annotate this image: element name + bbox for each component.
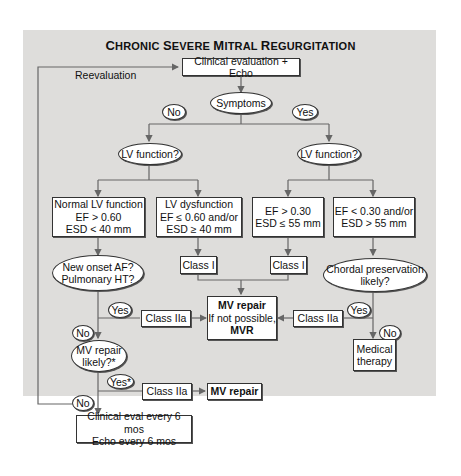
mv-repair-line2: If not possible, — [208, 312, 276, 325]
class-i-left-box[interactable]: Class I — [180, 256, 217, 274]
normal-lv-function-box[interactable]: Normal LV function EF > 0.60 ESD < 40 mm — [52, 197, 145, 237]
mv-repair-likely-node[interactable]: MV repair likely?* — [71, 340, 127, 372]
ef-gt-030-line1: EF > 0.30 — [265, 205, 311, 218]
normal-lv-line1: Normal LV function — [54, 198, 143, 211]
no-label: No — [162, 104, 186, 120]
mv-repair-line1: MV repair — [218, 299, 266, 312]
class-iia-right-box[interactable]: Class IIa — [293, 310, 343, 327]
mv-repair-center-box[interactable]: MV repair If not possible, MVR — [207, 296, 277, 340]
class-iia-left-box[interactable]: Class IIa — [141, 310, 191, 327]
lv-dysfunction-box[interactable]: LV dysfunction EF ≤ 0.60 and/or ESD ≥ 40… — [156, 197, 242, 237]
yes-star-label: Yes* — [107, 374, 134, 389]
clinical-evaluation-box[interactable]: Clinical evaluation + Echo — [182, 58, 300, 76]
yes-chordal-label: Yes — [347, 302, 371, 318]
followup-line1: Clinical eval every 6 mos — [77, 410, 191, 435]
mv-repair-likely-line1: MV repair — [76, 344, 122, 356]
ef-gt-030-line2: ESD ≤ 55 mm — [255, 217, 320, 230]
followup-line2: Echo every 6 mos — [92, 435, 176, 448]
mv-repair-likely-line2: likely?* — [82, 356, 115, 368]
no-af-label: No — [72, 325, 94, 341]
normal-lv-line3: ESD < 40 mm — [66, 223, 132, 236]
new-onset-af-line2: Pulmonary HT? — [62, 273, 135, 285]
mv-repair-bottom-box[interactable]: MV repair — [207, 383, 262, 400]
no-bottom-label: No — [72, 395, 94, 411]
medical-therapy-line1: Medical — [356, 343, 392, 356]
lv-dysfunction-line1: LV dysfunction — [165, 198, 233, 211]
ef-lt-030-box[interactable]: EF < 0.30 and/or ESD > 55 mm — [333, 197, 415, 237]
reevaluation-label: Reevaluation — [75, 69, 136, 81]
class-iia-bottom-box[interactable]: Class IIa — [142, 383, 192, 400]
followup-box[interactable]: Clinical eval every 6 mos Echo every 6 m… — [76, 415, 192, 443]
class-i-right-box[interactable]: Class I — [270, 256, 307, 274]
medical-therapy-line2: therapy — [357, 355, 392, 368]
lv-dysfunction-line3: ESD ≥ 40 mm — [166, 223, 231, 236]
normal-lv-line2: EF > 0.60 — [76, 211, 122, 224]
mv-repair-line3: MVR — [230, 324, 253, 337]
yes-af-label: Yes — [108, 302, 132, 318]
diagram-title: CHRONIC SEVERE MITRAL REGURGITATION — [0, 38, 461, 53]
medical-therapy-box[interactable]: Medical therapy — [353, 339, 396, 371]
ef-lt-030-line2: ESD > 55 mm — [341, 217, 407, 230]
yes-label: Yes — [292, 104, 318, 120]
lv-dysfunction-line2: EF ≤ 0.60 and/or — [160, 211, 238, 224]
lv-function-right-node[interactable]: LV function? — [297, 143, 361, 165]
ef-gt-030-box[interactable]: EF > 0.30 ESD ≤ 55 mm — [252, 197, 324, 237]
chordal-line2: likely? — [360, 275, 389, 287]
chordal-line1: Chordal preservation — [326, 263, 423, 275]
new-onset-af-line1: New onset AF? — [62, 261, 133, 273]
ef-lt-030-line1: EF < 0.30 and/or — [335, 205, 414, 218]
new-onset-af-node[interactable]: New onset AF? Pulmonary HT? — [52, 255, 144, 291]
chordal-preservation-node[interactable]: Chordal preservation likely? — [323, 258, 427, 292]
lv-function-left-node[interactable]: LV function? — [118, 143, 182, 165]
symptoms-node[interactable]: Symptoms — [210, 92, 272, 114]
